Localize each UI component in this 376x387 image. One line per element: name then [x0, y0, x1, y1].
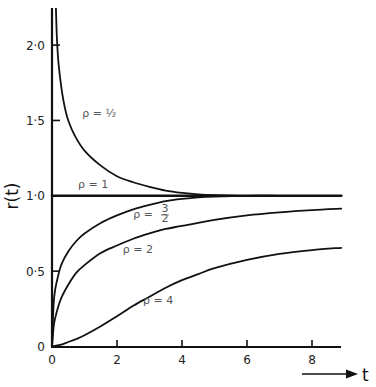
curve-rho-4	[52, 248, 341, 347]
y-tick-label: 1·0	[26, 189, 45, 203]
x-axis-title: t	[362, 365, 369, 385]
y-tick-label: 2·0	[26, 39, 45, 53]
arrow-head-icon	[346, 370, 358, 379]
x-ticks: 02468	[48, 340, 316, 367]
curves	[52, 7, 341, 346]
curve-label: ρ = ½	[82, 107, 116, 120]
x-tick-label: 0	[48, 353, 56, 367]
x-tick-label: 2	[113, 353, 121, 367]
curve-label: ρ = 2	[123, 243, 153, 256]
curve-label: ρ = 1	[78, 178, 108, 191]
y-tick-label: 0	[37, 340, 45, 354]
y-tick-label: 1·5	[26, 114, 45, 128]
x-tick-label: 6	[243, 353, 251, 367]
curve-rho-three-halves	[52, 196, 341, 347]
curve-labels: ρ = ½ρ = 1ρ =32ρ = 2ρ = 4	[78, 107, 173, 307]
x-tick-label: 4	[178, 353, 186, 367]
x-axis-arrow	[302, 370, 358, 379]
curve-rho-half	[56, 7, 341, 195]
y-axis-title: r(t)	[2, 183, 22, 210]
curve-rho-2	[52, 209, 341, 347]
curve-label: ρ =	[133, 208, 153, 221]
curve-label: ρ = 4	[143, 294, 173, 307]
fraction-denominator: 2	[161, 212, 168, 225]
line-chart: 02468 00·51·01·52·0 ρ = ½ρ = 1ρ =32ρ = 2…	[0, 0, 376, 387]
y-tick-label: 0·5	[26, 265, 45, 279]
x-tick-label: 8	[308, 353, 316, 367]
